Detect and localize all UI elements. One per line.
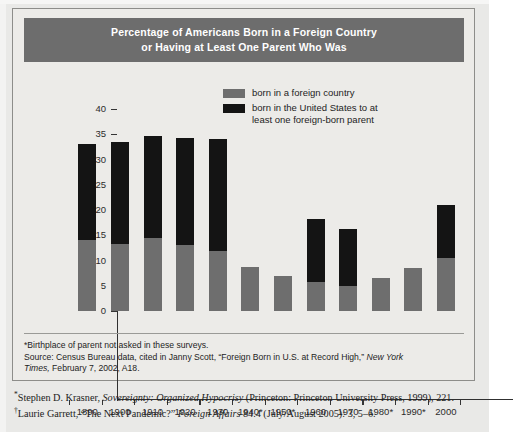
bar-1920 [176, 138, 194, 311]
footnote-2: †Laurie Garrett, “The Next Pandemic?” Fo… [14, 404, 484, 420]
bar-segment-foreign-born [176, 245, 194, 311]
source-citation-line-1: Source: Census Bureau data, cited in Jan… [24, 352, 464, 364]
footnote-1-title: Sovereignty: Organized Hypocrisy [103, 392, 244, 403]
figure-container: Percentage of Americans Born in a Foreig… [12, 8, 475, 381]
source-publication-name-cont: Times, [24, 363, 50, 373]
bar-1890 [78, 144, 96, 311]
page-left-edge [0, 0, 6, 432]
footnote-1: *Stephen D. Krasner, Sovereignty: Organi… [14, 388, 484, 404]
chart-title-line-2: or Having at Least One Parent Who Was [141, 41, 346, 53]
page-top-edge [0, 0, 489, 4]
bar-2000 [437, 205, 455, 311]
bar-segment-us-born [111, 142, 129, 244]
bar-segment-foreign-born [111, 244, 129, 311]
bar-segment-us-born [339, 229, 357, 286]
bar-segment-us-born [209, 139, 227, 251]
footnote-2-text-after: 84.4 (July/August 2005): 3, 5–6. [240, 409, 375, 420]
y-axis-tick [111, 134, 117, 135]
bar-segment-foreign-born [241, 267, 259, 311]
bar-segment-foreign-born [274, 276, 292, 311]
bar-segment-foreign-born [78, 240, 96, 311]
bar-1910 [144, 136, 162, 311]
bar-1940 [241, 267, 259, 311]
bar-1960 [307, 219, 325, 311]
footnote-2-title: Foreign Affairs [178, 409, 241, 420]
bar-segment-foreign-born [372, 278, 390, 311]
bar-1990 [404, 268, 422, 311]
bar-segment-foreign-born [437, 258, 455, 311]
bar-1950 [274, 276, 292, 311]
chart-title: Percentage of Americans Born in a Foreig… [111, 25, 377, 55]
footnote-1-text-before: Stephen D. Krasner, [18, 392, 103, 403]
y-axis-tick-label: 40 [80, 103, 106, 114]
source-citation-date: February 7, 2002, A18. [50, 363, 140, 373]
source-citation-line-2: Times, February 7, 2002, A18. [24, 363, 464, 375]
bar-segment-us-born [307, 219, 325, 282]
bar-1970 [339, 229, 357, 311]
y-axis-tick [111, 311, 117, 312]
bar-segment-foreign-born [209, 251, 227, 311]
plot-area: Percentage 0510152025303540 189019001910… [63, 97, 463, 313]
bar-1930 [209, 139, 227, 311]
source-note-block: *Birthplace of parent not asked in these… [24, 333, 464, 375]
chart-title-line-1: Percentage of Americans Born in a Foreig… [111, 26, 377, 38]
bar-1900 [111, 142, 129, 311]
bar-segment-us-born [78, 144, 96, 240]
page-footnotes: *Stephen D. Krasner, Sovereignty: Organi… [14, 388, 484, 421]
bar-segment-us-born [144, 136, 162, 238]
bar-segment-us-born [176, 138, 194, 245]
source-publication-name: New York [367, 352, 404, 362]
bar-1980 [372, 278, 390, 311]
bar-segment-foreign-born [307, 282, 325, 311]
bar-segment-us-born [437, 205, 455, 258]
y-axis-tick [111, 109, 117, 110]
source-citation-text: Source: Census Bureau data, cited in Jan… [24, 352, 367, 362]
y-axis-tick-label: 35 [80, 128, 106, 139]
chart-title-banner: Percentage of Americans Born in a Foreig… [24, 18, 464, 62]
bar-segment-foreign-born [339, 286, 357, 311]
footnote-1-text-after: (Princeton: Princeton University Press, … [243, 392, 454, 403]
source-asterisk-note: *Birthplace of parent not asked in these… [24, 340, 464, 352]
bar-segment-foreign-born [144, 238, 162, 311]
bar-segment-foreign-born [404, 268, 422, 311]
footnote-2-text-before: Laurie Garrett, “The Next Pandemic?” [18, 409, 178, 420]
